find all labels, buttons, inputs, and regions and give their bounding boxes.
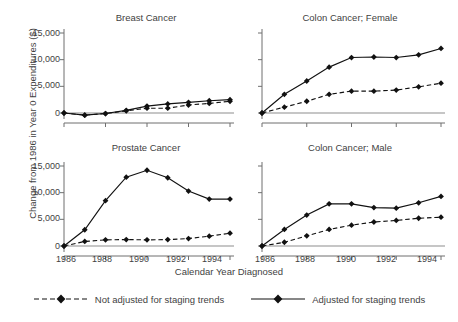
- data-point-marker: [393, 205, 399, 211]
- data-point-marker: [123, 107, 129, 113]
- ytick-bottom-0: 0: [0, 241, 60, 251]
- data-point-marker: [416, 200, 422, 206]
- data-point-marker: [438, 46, 444, 52]
- data-point-marker: [371, 219, 377, 225]
- panel-title-breast: Breast Cancer: [62, 12, 230, 23]
- xtick-left-1990: 1990: [121, 254, 157, 264]
- data-point-marker: [123, 237, 129, 243]
- data-point-marker: [186, 188, 192, 194]
- ytick-bottom-5000: 5,000: [0, 213, 60, 223]
- data-point-marker: [103, 237, 109, 243]
- legend-key-solid-diamond: [250, 293, 306, 305]
- panel-colon_male: [258, 162, 445, 260]
- data-point-marker: [371, 54, 377, 60]
- data-point-marker: [393, 55, 399, 61]
- xtick-left-1986: 1986: [48, 254, 84, 264]
- data-point-marker: [416, 52, 422, 58]
- xtick-right-1992: 1992: [368, 254, 404, 264]
- xtick-right-1986: 1986: [247, 254, 283, 264]
- xtick-left-1994: 1994: [194, 254, 230, 264]
- data-point-marker: [82, 239, 88, 245]
- series-line-adjusted: [64, 170, 230, 246]
- ytick-bottom-15000: 15,000: [0, 161, 60, 171]
- data-point-marker: [61, 110, 67, 116]
- data-point-marker: [416, 84, 422, 90]
- data-point-marker: [438, 194, 444, 200]
- data-point-marker: [349, 88, 355, 94]
- legend-entry-adjusted: Adjusted for staging trends: [250, 293, 425, 305]
- data-point-marker: [326, 64, 332, 70]
- data-point-marker: [371, 88, 377, 94]
- ytick-top-5000: 5,000: [0, 80, 60, 90]
- data-point-marker: [349, 55, 355, 61]
- series-line-not-adjusted: [262, 83, 441, 113]
- legend-key-dashed-diamond: [33, 293, 89, 305]
- data-point-marker: [416, 215, 422, 221]
- xtick-right-1988: 1988: [287, 254, 323, 264]
- data-point-marker: [206, 233, 212, 239]
- data-point-marker: [326, 227, 332, 233]
- series-line-not-adjusted: [262, 217, 441, 246]
- data-point-marker: [304, 212, 310, 218]
- data-point-marker: [304, 98, 310, 104]
- legend-entry-not-adjusted: Not adjusted for staging trends: [33, 293, 224, 305]
- data-point-marker: [227, 196, 233, 202]
- data-point-marker: [304, 233, 310, 239]
- ytick-top-15000: 15,000: [0, 28, 60, 38]
- data-point-marker: [281, 239, 287, 245]
- data-point-marker: [103, 111, 109, 117]
- panel-prostate: [60, 162, 234, 260]
- panel-colon_female: [258, 29, 445, 127]
- panel-title-colon-male: Colon Cancer; Male: [258, 142, 442, 153]
- data-point-marker: [165, 101, 171, 107]
- data-point-marker: [281, 104, 287, 110]
- data-point-marker: [227, 230, 233, 236]
- data-point-marker: [438, 80, 444, 86]
- data-point-marker: [326, 201, 332, 207]
- data-point-marker: [304, 78, 310, 84]
- chart-legend: Not adjusted for staging trends Adjusted…: [0, 293, 458, 305]
- data-point-marker: [206, 196, 212, 202]
- ytick-bottom-10000: 10,000: [0, 187, 60, 197]
- data-point-marker: [165, 175, 171, 181]
- figure-root: Change from 1986 in Year 0 Expenditures …: [0, 0, 458, 322]
- ytick-top-0: 0: [0, 108, 60, 118]
- xtick-right-1990: 1990: [328, 254, 364, 264]
- xtick-right-1994: 1994: [409, 254, 445, 264]
- x-axis-label: Calendar Year Diagnosed: [0, 266, 458, 277]
- y-axis-label: Change from 1986 in Year 0 Expenditures …: [27, 6, 38, 242]
- data-point-marker: [144, 237, 150, 243]
- ytick-top-10000: 10,000: [0, 54, 60, 64]
- data-point-marker: [393, 218, 399, 224]
- data-point-marker: [165, 237, 171, 243]
- xtick-left-1992: 1992: [158, 254, 194, 264]
- data-point-marker: [393, 87, 399, 93]
- data-point-marker: [326, 91, 332, 97]
- legend-label-not-adjusted: Not adjusted for staging trends: [95, 294, 224, 305]
- panel-breast: [60, 29, 234, 127]
- panel-title-colon-female: Colon Cancer; Female: [258, 12, 442, 23]
- data-point-marker: [371, 205, 377, 211]
- xtick-left-1988: 1988: [84, 254, 120, 264]
- data-point-marker: [349, 222, 355, 228]
- data-point-marker: [438, 214, 444, 220]
- data-point-marker: [186, 236, 192, 242]
- legend-label-adjusted: Adjusted for staging trends: [312, 294, 425, 305]
- panel-title-prostate: Prostate Cancer: [62, 142, 230, 153]
- data-point-marker: [144, 167, 150, 173]
- data-point-marker: [349, 201, 355, 207]
